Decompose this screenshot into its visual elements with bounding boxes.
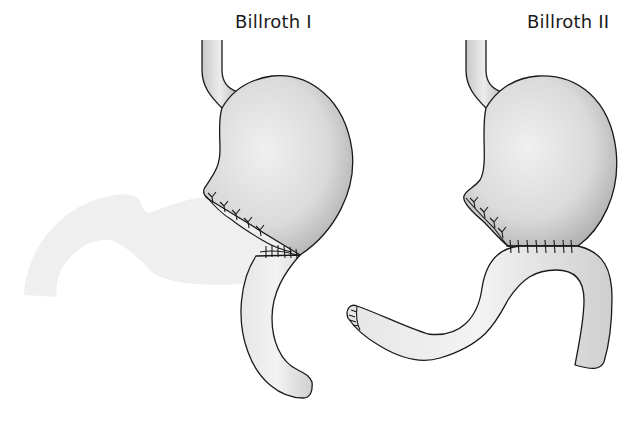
billroth-ii-panel [347,40,617,368]
billroth-i-panel [24,40,353,398]
duodenum [241,255,312,398]
jejunal-loop [347,246,612,368]
diagram-canvas [0,0,640,423]
